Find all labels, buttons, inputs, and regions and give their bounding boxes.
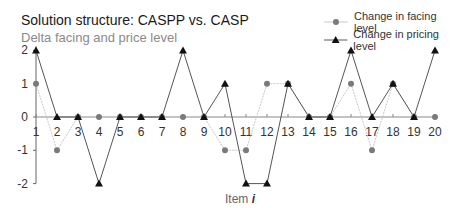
facing-point (222, 147, 228, 153)
y-tick-label: -2 (17, 177, 28, 191)
x-tick-label: 14 (302, 125, 316, 139)
y-tick-label: 0 (21, 110, 28, 124)
x-tick-label: 1 (33, 125, 40, 139)
x-tick-label: 13 (281, 125, 295, 139)
facing-point (369, 147, 375, 153)
y-tick-label: -1 (17, 143, 28, 157)
x-tick-label: 4 (96, 125, 103, 139)
y-tick-label: 2 (21, 43, 28, 57)
facing-point (33, 81, 39, 87)
x-tick-label: 10 (218, 125, 232, 139)
pricing-point (221, 80, 229, 87)
pricing-point (179, 46, 187, 53)
facing-point (264, 81, 270, 87)
x-tick-label: 6 (138, 125, 145, 139)
x-tick-label: 12 (260, 125, 274, 139)
line-chart: 210-1-21234567891011121314151617181920It… (0, 0, 462, 208)
x-tick-label: 16 (344, 125, 358, 139)
facing-point (243, 147, 249, 153)
x-tick-label: 19 (407, 125, 421, 139)
x-tick-label: 8 (180, 125, 187, 139)
facing-point (432, 114, 438, 120)
y-tick-label: 1 (21, 77, 28, 91)
x-tick-label: 2 (54, 125, 61, 139)
x-tick-label: 5 (117, 125, 124, 139)
x-tick-label: 15 (323, 125, 337, 139)
pricing-point (95, 180, 103, 187)
x-tick-label: 9 (201, 125, 208, 139)
pricing-point (347, 46, 355, 53)
facing-point (348, 81, 354, 87)
facing-point (54, 147, 60, 153)
x-tick-label: 3 (75, 125, 82, 139)
x-tick-label: 18 (386, 125, 400, 139)
x-tick-label: 7 (159, 125, 166, 139)
pricing-point (431, 46, 439, 53)
x-axis-title: Item i (225, 192, 256, 206)
facing-point (96, 114, 102, 120)
facing-point (180, 114, 186, 120)
x-tick-label: 20 (428, 125, 442, 139)
